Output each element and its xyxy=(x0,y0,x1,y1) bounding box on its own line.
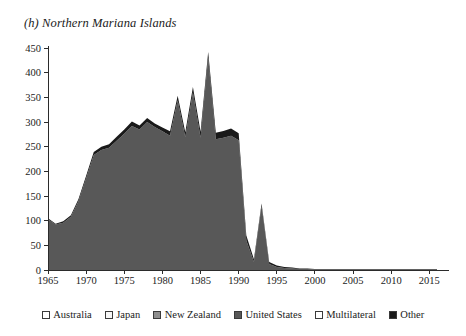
legend-label: Japan xyxy=(116,310,140,321)
y-tick-label: 100 xyxy=(25,215,41,226)
legend-item-multilateral[interactable]: Multilateral xyxy=(315,310,376,321)
x-tick-label: 1985 xyxy=(190,275,211,286)
y-tick-label: 250 xyxy=(25,141,41,152)
legend-item-australia[interactable]: Australia xyxy=(42,310,92,321)
legend-item-new-zealand[interactable]: New Zealand xyxy=(153,310,221,321)
x-axis-tick-labels: 1965197019751980198519901995200020052010… xyxy=(38,270,440,286)
y-tick-label: 50 xyxy=(31,240,42,251)
x-tick-label: 1970 xyxy=(76,275,97,286)
legend-label: Australia xyxy=(53,310,92,321)
series-layer xyxy=(48,52,437,270)
legend-swatch-icon xyxy=(389,311,397,319)
y-axis-tick-labels: -50050100150200250300350400450 xyxy=(25,43,48,288)
legend-label: United States xyxy=(245,310,301,321)
chart-legend: AustraliaJapanNew ZealandUnited StatesMu… xyxy=(0,305,466,325)
area-chart-svg: -50050100150200250300350400450 196519701… xyxy=(0,36,466,288)
legend-label: New Zealand xyxy=(165,310,221,321)
x-tick-label: 2010 xyxy=(381,275,402,286)
x-tick-label: 2015 xyxy=(419,275,440,286)
x-tick-label: 1965 xyxy=(38,275,59,286)
legend-swatch-icon xyxy=(234,311,242,319)
legend-swatch-icon xyxy=(153,311,161,319)
x-tick-label: 1975 xyxy=(114,275,135,286)
legend-swatch-icon xyxy=(105,311,113,319)
y-tick-label: 450 xyxy=(25,43,41,54)
x-tick-label: 1980 xyxy=(152,275,173,286)
legend-label: Multilateral xyxy=(326,310,376,321)
series-area-united-states xyxy=(48,58,437,270)
legend-swatch-icon xyxy=(315,311,323,319)
y-tick-label: 0 xyxy=(36,265,41,276)
x-tick-label: 2000 xyxy=(304,275,325,286)
legend-label: Other xyxy=(400,310,424,321)
y-tick-label: 300 xyxy=(25,117,41,128)
plot-area: -50050100150200250300350400450 196519701… xyxy=(0,36,466,288)
y-tick-label: 150 xyxy=(25,191,41,202)
legend-swatch-icon xyxy=(42,311,50,319)
x-tick-label: 1995 xyxy=(266,275,287,286)
y-tick-label: 200 xyxy=(25,166,41,177)
y-tick-label: 350 xyxy=(25,92,41,103)
figure: (h) Northern Mariana Islands -5005010015… xyxy=(0,0,466,336)
legend-item-other[interactable]: Other xyxy=(389,310,424,321)
y-tick-label: 400 xyxy=(25,67,41,78)
chart-title: (h) Northern Mariana Islands xyxy=(24,16,176,31)
x-tick-label: 2005 xyxy=(343,275,364,286)
x-tick-label: 1990 xyxy=(228,275,249,286)
legend-item-united-states[interactable]: United States xyxy=(234,310,302,321)
legend-item-japan[interactable]: Japan xyxy=(105,310,140,321)
